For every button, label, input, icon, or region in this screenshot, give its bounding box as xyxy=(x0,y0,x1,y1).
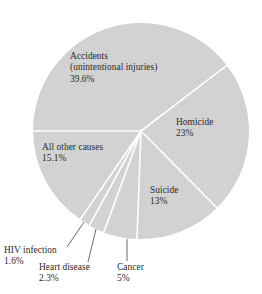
slice-label-cancer: Cancer 5% xyxy=(117,262,144,285)
slice-label-accidents-line2: (unintentional injuries) xyxy=(70,62,157,72)
slice-value-all-other-causes: 15.1% xyxy=(42,153,103,164)
slice-label-homicide: Homicide 23% xyxy=(176,117,213,140)
slice-value-homicide: 23% xyxy=(176,128,213,139)
leader-line-hiv xyxy=(67,222,84,247)
leader-line-heart-disease xyxy=(88,229,96,262)
slice-label-all-other-causes: All other causes 15.1% xyxy=(42,142,103,165)
slice-value-cancer: 5% xyxy=(117,273,144,284)
slice-label-heart-disease-line1: Heart disease xyxy=(39,262,90,272)
slice-label-heart-disease: Heart disease 2.3% xyxy=(39,262,90,285)
slice-label-cancer-line1: Cancer xyxy=(117,262,144,272)
slice-value-accidents: 39.6% xyxy=(70,74,157,85)
slice-value-heart-disease: 2.3% xyxy=(39,273,90,284)
slice-label-suicide: Suicide 13% xyxy=(150,185,178,208)
slice-value-suicide: 13% xyxy=(150,196,178,207)
slice-label-all-other-causes-line1: All other causes xyxy=(42,142,103,152)
slice-label-accidents: Accidents (unintentional injuries) 39.6% xyxy=(70,51,157,85)
slice-label-homicide-line1: Homicide xyxy=(176,117,213,127)
pie-chart: Accidents (unintentional injuries) 39.6%… xyxy=(0,0,262,294)
slice-label-accidents-line1: Accidents xyxy=(70,51,108,61)
slice-label-hiv-infection-line1: HIV infection xyxy=(4,245,57,255)
slice-label-suicide-line1: Suicide xyxy=(150,185,178,195)
